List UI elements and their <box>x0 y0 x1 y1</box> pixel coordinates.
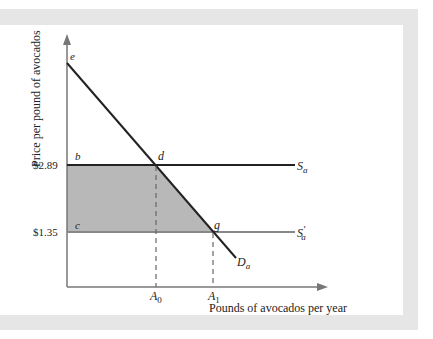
point-label-e: e <box>70 50 75 62</box>
x-axis-arrow-icon <box>317 283 328 291</box>
curve-label-sa: Sa <box>297 159 308 175</box>
point-label-c: c <box>75 219 80 231</box>
y-axis-arrow-icon <box>63 34 71 45</box>
x-axis-label: Pounds of avocados per year <box>209 301 347 315</box>
curve-label-sa-prime: S′a <box>297 224 306 242</box>
price-label-low: $1.35 <box>33 226 58 238</box>
price-label-high: $2.89 <box>33 159 58 171</box>
avocado-market-diagram: Price per pound of avocados $2.89 $1.35 … <box>0 0 433 339</box>
point-label-g: g <box>214 218 220 232</box>
point-label-b: b <box>75 150 81 162</box>
point-label-d: d <box>158 149 165 163</box>
y-axis-label: Price per pound of avocados <box>29 30 43 167</box>
quantity-label-a0: A0 <box>149 289 162 305</box>
curve-label-da: Da <box>236 255 251 271</box>
shaded-surplus-area <box>67 165 213 232</box>
